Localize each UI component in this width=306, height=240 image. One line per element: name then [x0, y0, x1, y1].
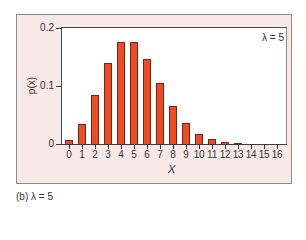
bar-x-8 [169, 106, 177, 144]
x-tick-label: 12 [218, 150, 232, 160]
x-tick-label: 0 [62, 150, 76, 160]
x-tick-label: 14 [244, 150, 258, 160]
x-tick-label: 9 [179, 150, 193, 160]
x-tick-label: 7 [153, 150, 167, 160]
x-tick-label: 1 [75, 150, 89, 160]
y-tick [56, 86, 61, 87]
x-tick-label: 3 [101, 150, 115, 160]
x-tick-label: 10 [192, 150, 206, 160]
y-tick-label: 0.2 [24, 23, 54, 33]
x-tick-label: 15 [257, 150, 271, 160]
y-axis-title: p(x) [26, 71, 37, 101]
y-tick [56, 28, 61, 29]
figure-caption: (b) λ = 5 [16, 192, 53, 202]
x-tick-label: 13 [231, 150, 245, 160]
x-axis-title: X [168, 163, 175, 175]
bar-x-6 [143, 59, 151, 144]
x-tick-label: 5 [127, 150, 141, 160]
bar-x-4 [117, 42, 125, 144]
y-tick-label: 0 [24, 139, 54, 149]
y-axis-title-text: p(x) [26, 77, 37, 94]
x-tick-label: 11 [205, 150, 219, 160]
x-tick-label: 2 [88, 150, 102, 160]
bar-x-9 [182, 123, 190, 144]
x-tick-label: 4 [114, 150, 128, 160]
bar-x-5 [130, 42, 138, 144]
x-tick-label: 8 [166, 150, 180, 160]
y-tick [56, 144, 61, 145]
bar-x-2 [91, 95, 99, 144]
x-axis-line [56, 144, 287, 145]
bar-x-3 [104, 63, 112, 144]
bar-x-1 [78, 124, 86, 144]
bar-x-7 [156, 83, 164, 144]
lambda-annotation: λ = 5 [262, 32, 284, 43]
bar-x-10 [195, 134, 203, 144]
x-tick-label: 6 [140, 150, 154, 160]
x-tick-label: 16 [270, 150, 284, 160]
